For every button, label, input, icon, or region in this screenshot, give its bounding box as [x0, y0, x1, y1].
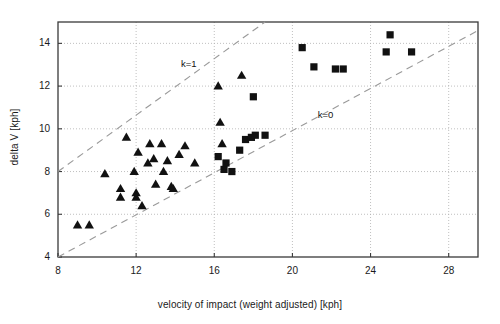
y-axis-label: delta V [kph]: [9, 77, 20, 197]
data-points: [73, 31, 415, 228]
grid-lines: [58, 22, 478, 257]
y-tick-label: 12: [26, 80, 50, 91]
x-tick-label: 24: [356, 265, 386, 276]
y-tick-label: 6: [26, 208, 50, 219]
plot-frame: [58, 22, 478, 257]
scatter-chart-figure: 81216202428468101214 k=1k=0 velocity of …: [0, 0, 500, 324]
x-tick-label: 16: [199, 265, 229, 276]
y-tick-label: 10: [26, 123, 50, 134]
plot-canvas: [0, 0, 500, 324]
reference-lines: [58, 22, 478, 257]
x-tick-label: 28: [434, 265, 464, 276]
annotation-k1: k=1: [181, 58, 197, 69]
y-tick-label: 14: [26, 37, 50, 48]
y-axis-label-wrapper: delta V [kph]: [9, 77, 23, 197]
x-tick-label: 20: [277, 265, 307, 276]
annotation-k0: k=0: [318, 109, 334, 120]
y-tick-label: 8: [26, 166, 50, 177]
x-tick-label: 8: [43, 265, 73, 276]
x-tick-label: 12: [121, 265, 151, 276]
x-axis-label: velocity of impact (weight adjusted) [kp…: [0, 299, 500, 310]
y-tick-label: 4: [26, 251, 50, 262]
